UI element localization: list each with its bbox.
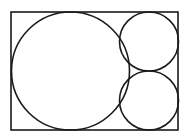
small-circle-bottom	[120, 71, 179, 130]
large-circle	[12, 12, 130, 130]
geometry-diagram	[0, 0, 189, 137]
small-circle-top	[120, 12, 179, 71]
